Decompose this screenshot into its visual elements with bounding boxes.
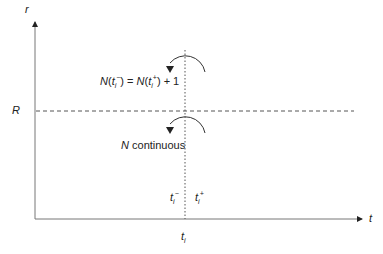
threshold-label: R <box>12 105 20 116</box>
t-plus-sup: + <box>200 190 204 197</box>
lhs-fn: N <box>100 75 108 87</box>
rhs-fn: N <box>137 75 145 87</box>
continuous-arc-arrow-icon <box>170 117 205 133</box>
jump-equation: N(ti−) = N(ti+) + 1 <box>100 76 179 87</box>
rhs-tail: + 1 <box>161 75 180 87</box>
t-plus-sub: i <box>198 198 200 205</box>
equals: = <box>124 75 137 87</box>
continuous-arrowhead-icon <box>166 127 174 134</box>
event-time-subscript: i <box>184 237 186 244</box>
event-time-label: ti <box>181 231 186 242</box>
lhs-sub: i <box>115 82 117 89</box>
continuous-text: continuous <box>129 139 185 151</box>
jump-arrowhead-icon <box>166 66 174 73</box>
y-axis-label: r <box>25 4 29 15</box>
lhs-sup: − <box>116 74 120 81</box>
x-axis-label: t <box>369 213 372 224</box>
continuous-annotation: N continuous <box>121 140 185 151</box>
rhs-sup: + <box>153 74 157 81</box>
rhs-sub: i <box>151 82 153 89</box>
t-plus-label: ti+ <box>195 192 204 203</box>
t-minus-sup: − <box>175 190 179 197</box>
diagram-canvas <box>0 0 383 254</box>
t-minus-label: ti− <box>170 192 179 203</box>
continuous-var: N <box>121 139 129 151</box>
t-minus-sub: i <box>173 198 175 205</box>
jump-arc-arrow-icon <box>170 56 205 72</box>
